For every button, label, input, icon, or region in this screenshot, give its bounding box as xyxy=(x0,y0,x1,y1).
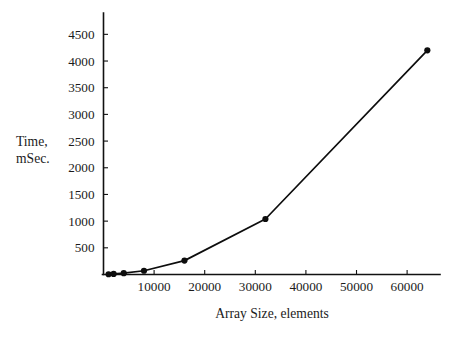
line-chart: 50010001500200025003000350040004500 1000… xyxy=(0,0,456,337)
y-tick-label: 1500 xyxy=(68,187,95,202)
axes xyxy=(103,13,441,275)
data-series: 1000, 52000, 104000, 258000, 7016000, 26… xyxy=(105,47,430,277)
y-tick-label: 3000 xyxy=(68,107,95,122)
y-tick-label: 500 xyxy=(75,240,95,255)
y-tick-label: 1000 xyxy=(68,214,95,229)
x-tick-label: 50000 xyxy=(340,279,373,294)
series-line-time xyxy=(109,50,428,274)
y-tick-label: 4500 xyxy=(68,27,95,42)
data-point-marker: 16000, 260 xyxy=(181,258,187,264)
x-tick-label: 40000 xyxy=(289,279,322,294)
data-point-marker: 2000, 10 xyxy=(111,271,117,277)
data-point-marker: 4000, 25 xyxy=(121,270,127,276)
y-tick-label: 4000 xyxy=(68,54,95,69)
chart-page: 50010001500200025003000350040004500 1000… xyxy=(0,0,456,337)
data-point-marker: 8000, 70 xyxy=(141,268,147,274)
y-tick-label: 2000 xyxy=(68,160,95,175)
data-point-marker: 32000, 1040 xyxy=(262,216,268,222)
x-tick-label: 10000 xyxy=(138,279,171,294)
y-tick-label: 2500 xyxy=(68,134,95,149)
y-axis-title-line2: mSec. xyxy=(16,151,50,166)
y-axis-title-line1: Time, xyxy=(16,134,48,149)
x-tick-label: 30000 xyxy=(239,279,272,294)
axis-titles: Time,mSec.Array Size, elements xyxy=(16,134,329,321)
y-tick-label: 3500 xyxy=(68,80,95,95)
x-tick-label: 60000 xyxy=(391,279,424,294)
data-point-marker: 64000, 4200 xyxy=(424,47,430,53)
x-axis-ticks: 100002000030000400005000060000 xyxy=(138,270,424,294)
x-axis-title: Array Size, elements xyxy=(215,306,329,321)
y-axis-ticks: 50010001500200025003000350040004500 xyxy=(68,27,108,255)
x-tick-label: 20000 xyxy=(188,279,221,294)
